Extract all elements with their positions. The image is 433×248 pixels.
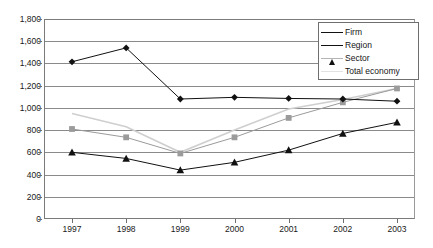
y-axis-tick <box>38 19 42 20</box>
y-axis: 02004006008001,0001,2001,4001,6001,800 <box>0 0 41 248</box>
x-axis-tick <box>72 219 73 223</box>
legend-key-firm <box>319 26 345 39</box>
y-axis-tick <box>38 175 42 176</box>
legend-item-region: Region <box>319 39 418 52</box>
data-point-marker <box>394 86 400 92</box>
x-axis-tick-label: 1997 <box>50 224 94 234</box>
y-axis-tick <box>38 152 42 153</box>
data-point-marker <box>285 95 292 102</box>
y-axis-tick <box>38 108 42 109</box>
data-point-marker <box>68 149 76 156</box>
y-axis-tick <box>38 219 42 220</box>
data-point-marker <box>285 146 293 153</box>
x-axis-tick-label: 2000 <box>213 224 257 234</box>
legend-label: Region <box>345 41 372 50</box>
y-axis-tick <box>38 41 42 42</box>
y-axis-tick-label: 400 <box>1 171 41 179</box>
legend-label: Firm <box>345 28 362 37</box>
y-axis-tick <box>38 197 42 198</box>
y-axis-tick <box>38 130 42 131</box>
x-axis-tick <box>289 219 290 223</box>
data-point-marker <box>393 119 401 126</box>
y-axis-tick-label: 0 <box>1 215 41 223</box>
legend-key-total-economy <box>319 65 345 78</box>
legend-label: Sector <box>345 54 370 63</box>
legend-key-region <box>319 39 345 52</box>
y-axis-tick-label: 1,200 <box>1 82 41 90</box>
x-axis-tick <box>180 219 181 223</box>
data-point-marker <box>69 126 75 132</box>
x-axis-tick <box>126 219 127 223</box>
legend-label: Total economy <box>345 67 400 76</box>
x-axis-tick-label: 2001 <box>267 224 311 234</box>
legend-item-total-economy: Total economy <box>319 65 418 78</box>
x-axis-tick-label: 2003 <box>375 224 419 234</box>
data-point-marker <box>177 151 183 157</box>
x-axis-tick-label: 1999 <box>158 224 202 234</box>
legend-item-sector: Sector <box>319 52 418 65</box>
x-axis-tick <box>397 219 398 223</box>
y-axis-tick-label: 1,600 <box>1 37 41 45</box>
x-axis-tick-label: 1998 <box>104 224 148 234</box>
y-axis-tick-label: 600 <box>1 148 41 156</box>
y-axis-tick <box>38 63 42 64</box>
data-point-marker <box>286 115 292 121</box>
data-point-marker <box>394 98 401 105</box>
data-point-marker <box>231 94 238 101</box>
legend-item-firm: Firm <box>319 26 418 39</box>
legend-key-sector <box>319 52 345 65</box>
x-axis-tick-label: 2002 <box>321 224 365 234</box>
data-point-marker <box>232 134 238 140</box>
y-axis-tick-label: 1,000 <box>1 104 41 112</box>
chart-legend: Firm Region Sector Total economy <box>318 22 419 80</box>
data-point-marker <box>69 58 76 65</box>
data-point-marker <box>123 134 129 140</box>
chart-container: 02004006008001,0001,2001,4001,6001,800 F… <box>0 0 433 248</box>
x-axis-tick <box>343 219 344 223</box>
y-axis-tick-label: 1,800 <box>1 15 41 23</box>
y-axis-tick-label: 800 <box>1 126 41 134</box>
y-axis-tick <box>38 86 42 87</box>
y-axis-tick-label: 1,400 <box>1 59 41 67</box>
y-axis-tick-label: 200 <box>1 193 41 201</box>
x-axis-tick <box>235 219 236 223</box>
